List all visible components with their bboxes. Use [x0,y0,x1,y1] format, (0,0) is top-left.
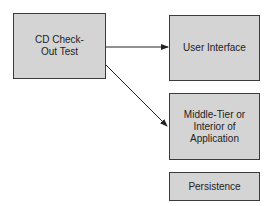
middle-tier-box: Middle-Tier or Interior of Application [169,93,260,160]
user-interface-label: User Interface [183,42,246,54]
cd-checkout-test-label: CD Check-Out Test [30,34,90,58]
user-interface-box: User Interface [169,15,260,81]
arrow-to-middle-tier [105,64,167,126]
middle-tier-label: Middle-Tier or Interior of Application [184,109,246,145]
persistence-box: Persistence [169,172,260,201]
persistence-label: Persistence [188,181,240,193]
cd-checkout-test-box: CD Check-Out Test [13,13,106,79]
